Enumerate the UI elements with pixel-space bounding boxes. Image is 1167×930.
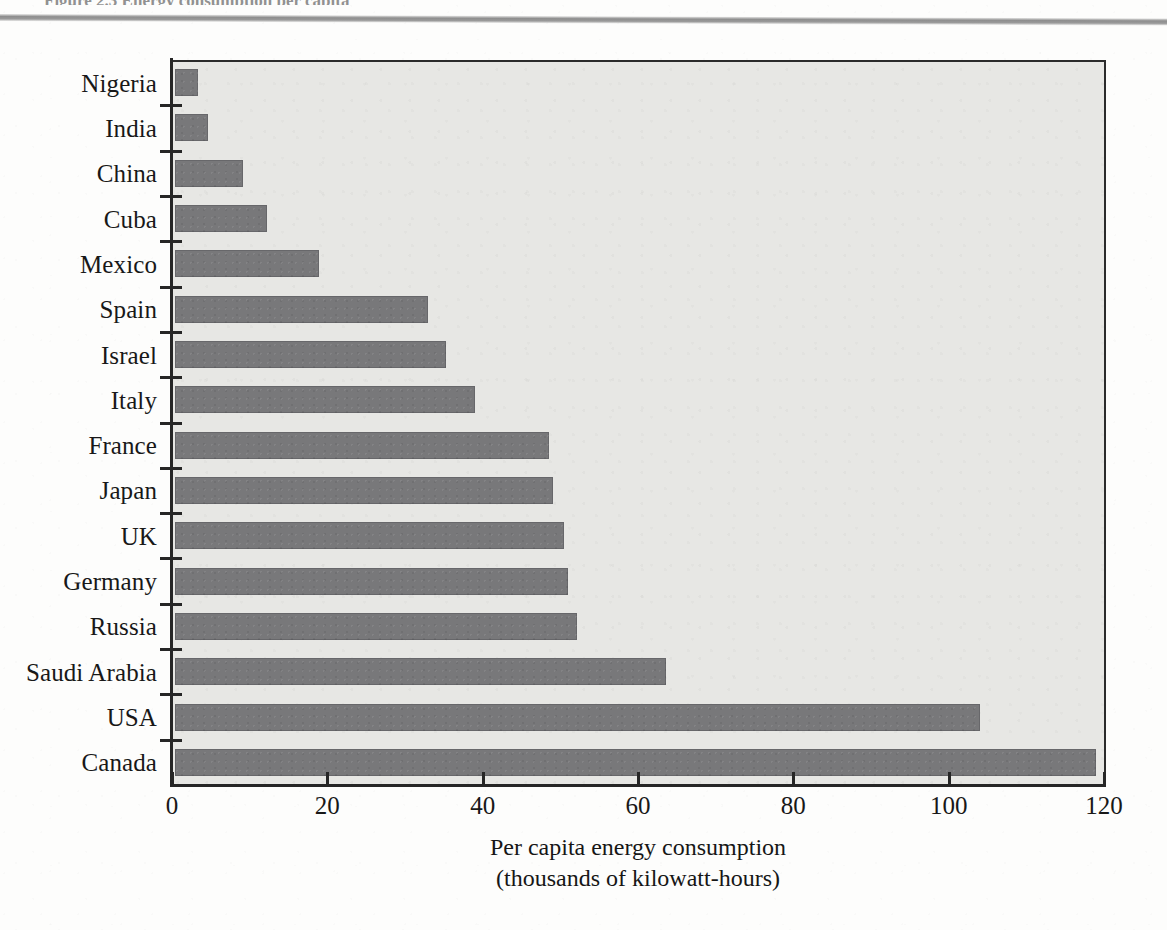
y-axis-label-india: India: [105, 116, 157, 141]
bar-row: [172, 241, 1104, 286]
y-axis-label-china: China: [97, 161, 157, 186]
x-axis-tick: [171, 772, 174, 787]
bar-spain: [175, 296, 428, 323]
y-axis-label-nigeria: Nigeria: [81, 71, 157, 96]
bar-germany: [175, 568, 568, 595]
x-axis-tick: [326, 772, 329, 787]
x-axis-title: Per capita energy consumption (thousands…: [172, 832, 1104, 894]
y-axis-label-russia: Russia: [90, 614, 157, 639]
x-axis-label-40: 40: [470, 793, 495, 818]
y-axis-label-japan: Japan: [100, 478, 157, 503]
y-axis-label-france: France: [88, 433, 157, 458]
bar-row: [172, 649, 1104, 694]
bar-chart-figure: NigeriaIndiaChinaCubaMexicoSpainIsraelIt…: [0, 0, 1167, 930]
bar-row: [172, 558, 1104, 603]
y-axis-tick: [160, 240, 182, 243]
y-axis-label-spain: Spain: [100, 297, 157, 322]
bar-cuba: [175, 205, 267, 232]
y-axis-label-mexico: Mexico: [80, 252, 157, 277]
bar-india: [175, 114, 208, 141]
x-axis-tick: [1103, 772, 1106, 787]
y-axis-label-uk: UK: [121, 524, 157, 549]
bar-row: [172, 694, 1104, 739]
y-axis-tick: [160, 376, 182, 379]
y-axis-tick: [160, 331, 182, 334]
bar-israel: [175, 341, 446, 368]
bar-row: [172, 513, 1104, 558]
x-axis-title-line2: (thousands of kilowatt-hours): [172, 863, 1104, 894]
bar-row: [172, 196, 1104, 241]
y-axis-tick: [160, 286, 182, 289]
bar-mexico: [175, 250, 319, 277]
bar-nigeria: [175, 69, 198, 96]
bar-row: [172, 423, 1104, 468]
y-axis-tick: [160, 739, 182, 742]
bar-china: [175, 160, 243, 187]
bar-row: [172, 604, 1104, 649]
y-axis-label-italy: Italy: [111, 388, 157, 413]
bar-saudi-arabia: [175, 658, 666, 685]
y-axis-tick: [160, 150, 182, 153]
page-canvas: Figure 2.3 Energy consumption per capita…: [0, 0, 1167, 930]
y-axis-tick: [160, 195, 182, 198]
x-axis-title-line1: Per capita energy consumption: [172, 832, 1104, 863]
bar-italy: [175, 386, 475, 413]
x-axis-label-100: 100: [930, 793, 968, 818]
y-axis-tick: [160, 512, 182, 515]
y-axis-label-usa: USA: [107, 705, 157, 730]
y-axis-tick: [160, 693, 182, 696]
y-axis-label-cuba: Cuba: [104, 207, 157, 232]
bars-layer: [172, 60, 1104, 785]
x-axis-tick: [637, 772, 640, 787]
bar-usa: [175, 704, 980, 731]
bar-row: [172, 332, 1104, 377]
y-axis-tick: [160, 557, 182, 560]
bar-france: [175, 432, 549, 459]
x-axis-tick: [482, 772, 485, 787]
bar-row: [172, 105, 1104, 150]
bar-row: [172, 377, 1104, 422]
bar-row: [172, 60, 1104, 105]
bar-row: [172, 468, 1104, 513]
x-axis-label-120: 120: [1085, 793, 1123, 818]
y-axis-tick: [160, 648, 182, 651]
bar-uk: [175, 522, 564, 549]
x-axis-label-60: 60: [626, 793, 651, 818]
y-axis-label-germany: Germany: [63, 569, 157, 594]
bar-canada: [175, 749, 1096, 776]
y-axis-tick: [160, 104, 182, 107]
x-axis-label-20: 20: [315, 793, 340, 818]
x-axis-tick: [948, 772, 951, 787]
y-axis-label-canada: Canada: [81, 750, 157, 775]
x-axis-label-0: 0: [166, 793, 179, 818]
y-axis-label-israel: Israel: [101, 343, 157, 368]
x-axis-tick: [792, 772, 795, 787]
y-axis-tick: [160, 603, 182, 606]
x-axis-label-80: 80: [781, 793, 806, 818]
y-axis-tick: [160, 422, 182, 425]
bar-japan: [175, 477, 553, 504]
y-axis-label-saudi-arabia: Saudi Arabia: [26, 660, 157, 685]
y-axis-tick: [160, 467, 182, 470]
bar-russia: [175, 613, 577, 640]
bar-row: [172, 287, 1104, 332]
bar-row: [172, 151, 1104, 196]
